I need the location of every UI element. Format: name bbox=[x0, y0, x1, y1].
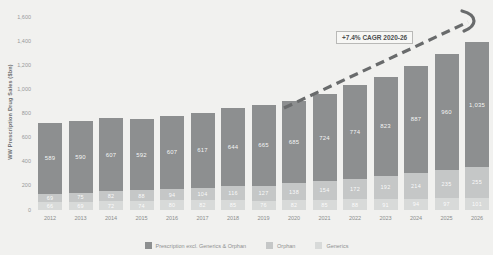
legend-swatch-icon bbox=[266, 242, 273, 249]
segment: 665 bbox=[252, 105, 276, 185]
segment-value-label: 85 bbox=[230, 202, 237, 208]
segment: 75 bbox=[69, 193, 93, 202]
segment-value-label: 101 bbox=[472, 201, 482, 207]
x-tick-label: 2025 bbox=[440, 215, 452, 221]
legend-label: Generics bbox=[326, 243, 348, 249]
y-tick-label: 1,400 bbox=[0, 38, 31, 45]
segment-value-label: 94 bbox=[169, 192, 176, 198]
segment-value-label: 617 bbox=[197, 147, 208, 153]
segment: 82 bbox=[191, 200, 215, 210]
segment: 74 bbox=[130, 201, 154, 210]
legend-swatch-icon bbox=[145, 242, 152, 249]
segment: 644 bbox=[221, 108, 245, 186]
segment-value-label: 592 bbox=[136, 152, 147, 158]
legend: Prescription excl. Generics & OrphanOrph… bbox=[0, 242, 493, 249]
bar-2022: 774172882022 bbox=[343, 17, 367, 210]
segment: 607 bbox=[160, 116, 184, 189]
segment: 823 bbox=[374, 77, 398, 176]
segment-value-label: 94 bbox=[413, 201, 420, 207]
bar-2015: 59288742015 bbox=[130, 17, 154, 210]
segment-value-label: 80 bbox=[169, 202, 176, 208]
segment: 1,035 bbox=[465, 42, 489, 167]
segment-value-label: 590 bbox=[75, 154, 86, 160]
segment: 97 bbox=[435, 198, 459, 210]
segment: 724 bbox=[313, 94, 337, 181]
x-tick-label: 2021 bbox=[318, 215, 330, 221]
legend-label: Prescription excl. Generics & Orphan bbox=[156, 243, 246, 249]
x-tick-label: 2024 bbox=[410, 215, 422, 221]
segment: 235 bbox=[435, 170, 459, 198]
segment-value-label: 665 bbox=[258, 142, 269, 148]
segment: 82 bbox=[282, 200, 306, 210]
x-tick-label: 2018 bbox=[227, 215, 239, 221]
segment-value-label: 192 bbox=[381, 184, 391, 190]
x-tick-label: 2012 bbox=[44, 215, 56, 221]
x-tick-label: 2013 bbox=[74, 215, 86, 221]
segment-value-label: 589 bbox=[45, 155, 56, 161]
segment-value-label: 82 bbox=[108, 193, 115, 199]
bar-2026: 1,0352551012026 bbox=[465, 17, 489, 210]
segment-value-label: 116 bbox=[228, 190, 237, 196]
segment: 69 bbox=[38, 194, 62, 202]
bar-2012: 58969662012 bbox=[38, 17, 62, 210]
segment-value-label: 88 bbox=[352, 202, 359, 208]
segment: 85 bbox=[221, 200, 245, 210]
segment: 214 bbox=[404, 173, 428, 199]
segment: 590 bbox=[69, 121, 93, 192]
segment-value-label: 255 bbox=[472, 179, 482, 185]
x-tick-label: 2020 bbox=[288, 215, 300, 221]
segment-value-label: 644 bbox=[228, 144, 239, 150]
bar-2016: 60794802016 bbox=[160, 17, 184, 210]
segment: 66 bbox=[38, 202, 62, 210]
y-tick-label: 400 bbox=[0, 158, 31, 165]
y-tick-label: 600 bbox=[0, 134, 31, 141]
bar-2025: 960235972025 bbox=[435, 17, 459, 210]
segment-value-label: 69 bbox=[77, 203, 84, 209]
segment: 116 bbox=[221, 186, 245, 200]
segment: 80 bbox=[160, 200, 184, 210]
segment-value-label: 66 bbox=[47, 203, 54, 209]
segment-value-label: 138 bbox=[289, 189, 299, 195]
segment-value-label: 607 bbox=[167, 149, 178, 155]
y-tick-label: 1,600 bbox=[0, 14, 31, 21]
cagr-annotation: +7.4% CAGR 2020-26 bbox=[336, 31, 413, 44]
segment: 88 bbox=[130, 190, 154, 201]
segment-value-label: 214 bbox=[411, 183, 421, 189]
legend-item: Prescription excl. Generics & Orphan bbox=[145, 242, 246, 249]
segment-value-label: 823 bbox=[380, 123, 391, 129]
bar-2017: 617104822017 bbox=[191, 17, 215, 210]
segment-value-label: 774 bbox=[350, 129, 361, 135]
x-tick-label: 2023 bbox=[379, 215, 391, 221]
segment: 138 bbox=[282, 183, 306, 200]
segment-value-label: 82 bbox=[291, 202, 298, 208]
segment: 960 bbox=[435, 54, 459, 170]
bar-2021: 724154852021 bbox=[313, 17, 337, 210]
segment: 85 bbox=[313, 200, 337, 210]
y-tick-label: 1,000 bbox=[0, 86, 31, 93]
x-tick-label: 2026 bbox=[471, 215, 483, 221]
segment: 69 bbox=[69, 202, 93, 210]
bar-2013: 59075692013 bbox=[69, 17, 93, 210]
legend-label: Orphan bbox=[277, 243, 295, 249]
segment-value-label: 74 bbox=[138, 203, 145, 209]
segment-value-label: 887 bbox=[411, 116, 422, 122]
segment: 94 bbox=[160, 189, 184, 200]
segment: 592 bbox=[130, 119, 154, 190]
bar-2018: 644116852018 bbox=[221, 17, 245, 210]
segment-value-label: 154 bbox=[320, 187, 330, 193]
segment-value-label: 76 bbox=[260, 202, 267, 208]
y-tick-label: 200 bbox=[0, 182, 31, 189]
segment: 88 bbox=[343, 199, 367, 210]
segment: 887 bbox=[404, 66, 428, 173]
segment-value-label: 97 bbox=[443, 201, 450, 207]
legend-item: Orphan bbox=[266, 242, 295, 249]
segment: 617 bbox=[191, 113, 215, 187]
segment-value-label: 172 bbox=[350, 186, 360, 192]
segment: 255 bbox=[465, 167, 489, 198]
segment: 192 bbox=[374, 176, 398, 199]
segment: 154 bbox=[313, 181, 337, 200]
y-tick-label: 1,200 bbox=[0, 62, 31, 69]
segment: 607 bbox=[99, 118, 123, 191]
legend-item: Generics bbox=[315, 242, 348, 249]
segment: 127 bbox=[252, 186, 276, 201]
